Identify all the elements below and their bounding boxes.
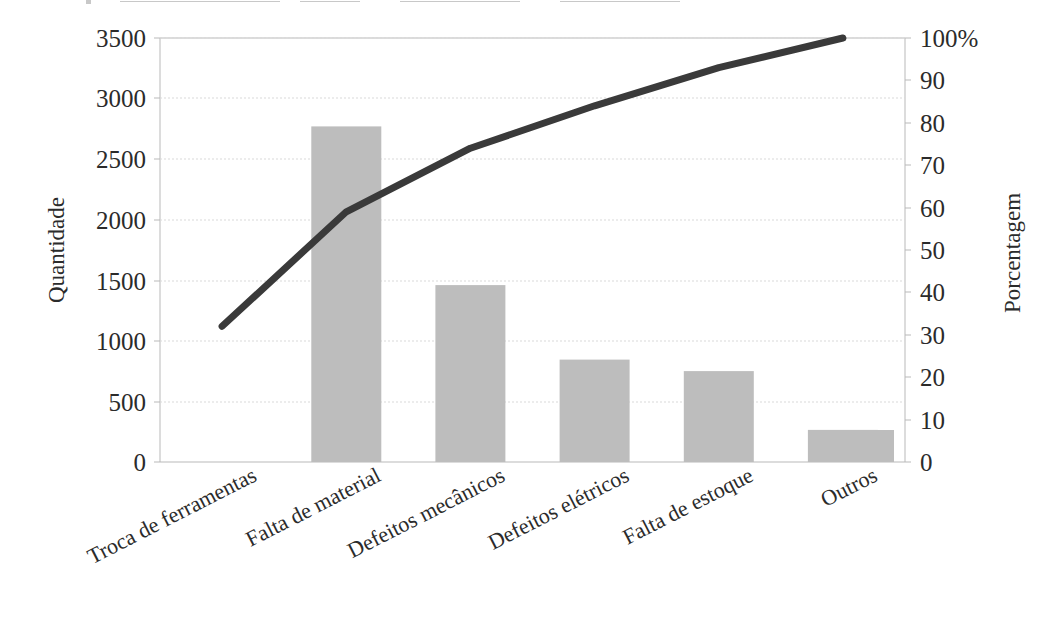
y-axis-right-title: Porcentagem (1000, 193, 1025, 313)
cat-label-defeitos-eletricos: Defeitos elétricos (484, 462, 633, 554)
bar-outros (824, 430, 894, 462)
y-tick-1000: 1000 (96, 328, 146, 355)
scan-artifact-top (86, 0, 680, 4)
bar-defeitos-mecanicos (560, 360, 630, 462)
y2-tick-20: 20 (920, 364, 945, 391)
cat-label-outros: Outros (816, 462, 881, 511)
y-tick-3500: 3500 (96, 25, 146, 52)
y-tick-0: 0 (134, 449, 147, 476)
y-axis-right-ticks (905, 38, 911, 462)
y-tick-3000: 3000 (96, 85, 146, 112)
y-axis-left-ticks (154, 38, 160, 462)
y-tick-1500: 1500 (96, 268, 146, 295)
cat-label-falta-de-estoque: Falta de estoque (618, 462, 757, 549)
x-axis-category-labels: Troca de ferramentas Falta de material D… (83, 462, 881, 569)
y2-tick-60: 60 (920, 195, 945, 222)
pareto-chart-canvas: 3500 3000 2500 2000 1500 1000 500 0 100% (0, 0, 1061, 617)
pareto-chart: 3500 3000 2500 2000 1500 1000 500 0 100% (0, 0, 1061, 617)
y2-tick-10: 10 (920, 407, 945, 434)
y2-tick-0: 0 (920, 449, 933, 476)
y2-tick-50: 50 (920, 237, 945, 264)
y-axis-left-title: Quantidade (44, 197, 69, 303)
y2-tick-40: 40 (920, 279, 945, 306)
y-axis-right-labels: 100% 90 80 70 60 50 40 30 20 10 0 (920, 25, 978, 476)
y-tick-500: 500 (109, 389, 147, 416)
y2-tick-30: 30 (920, 322, 945, 349)
y-axis-left-labels: 3500 3000 2500 2000 1500 1000 500 0 (96, 25, 146, 476)
y-tick-2500: 2500 (96, 146, 146, 173)
cat-label-troca-de-ferramentas: Troca de ferramentas (83, 462, 260, 569)
plot-frame (160, 38, 905, 462)
y2-tick-90: 90 (920, 67, 945, 94)
bar-troca-de-ferramentas (311, 126, 381, 462)
y2-tick-70: 70 (920, 152, 945, 179)
bar-series (311, 126, 894, 462)
bar-defeitos-eletricos (684, 371, 754, 462)
y2-tick-100: 100% (920, 25, 978, 52)
y2-tick-80: 80 (920, 110, 945, 137)
gridlines (160, 38, 905, 402)
bar-falta-de-material (435, 285, 505, 462)
y-tick-2000: 2000 (96, 207, 146, 234)
